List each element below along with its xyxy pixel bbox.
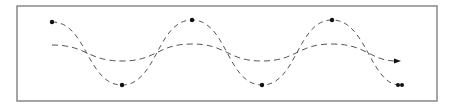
marker-dot <box>330 18 334 22</box>
marker-dot <box>190 18 194 22</box>
marker-dot <box>50 20 54 24</box>
marker-dot <box>260 83 264 87</box>
arrowhead-icon <box>394 59 401 64</box>
marker-dot <box>120 83 124 87</box>
diagram-frame <box>17 6 437 101</box>
double-dot-end-icon <box>396 83 404 87</box>
peak-trough-markers <box>50 18 334 87</box>
diagram-svg <box>0 0 452 107</box>
wave-diagram <box>0 0 452 107</box>
